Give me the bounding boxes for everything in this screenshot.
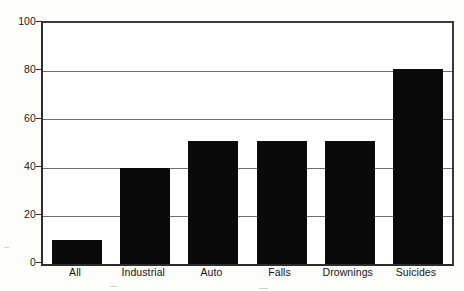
x-tick-label-industrial: Industrial: [109, 266, 177, 278]
y-tick-label-40: 40: [4, 161, 36, 171]
x-axis: AllIndustrialAutoFallsDrowningsSuicides: [41, 266, 450, 288]
bar-suicides: [393, 69, 443, 264]
bar-auto: [188, 141, 238, 264]
bar-all: [52, 240, 102, 264]
bar-industrial: [120, 168, 170, 264]
bar-falls: [257, 141, 307, 264]
scan-speck: [110, 286, 117, 287]
x-tick-label-drownings: Drownings: [314, 266, 382, 278]
y-tick-label-60: 60: [4, 113, 36, 123]
bar-drownings: [325, 141, 375, 264]
x-tick-label-falls: Falls: [246, 266, 314, 278]
y-tick-label-80: 80: [4, 64, 36, 74]
x-tick-label-suicides: Suicides: [382, 266, 450, 278]
y-tick-label-100: 100: [4, 16, 36, 26]
plot-area: [41, 21, 454, 266]
x-tick-label-auto: Auto: [177, 266, 245, 278]
bars-layer: [43, 23, 452, 264]
y-tick-label-0: 0: [4, 257, 36, 267]
x-tick-label-all: All: [41, 266, 109, 278]
scan-speck: [4, 247, 9, 248]
y-tick-label-20: 20: [4, 209, 36, 219]
bar-chart: 100 80 60 40 20 0 AllIndustrialAutoFalls…: [0, 0, 464, 291]
scan-speck: [259, 288, 268, 289]
